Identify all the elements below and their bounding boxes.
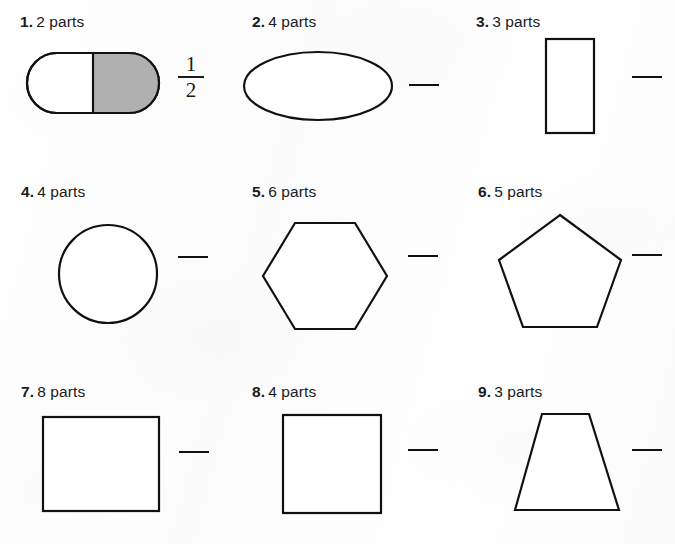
problem-5-label: 5.6 parts [252,183,316,201]
problem-7-label: 7.8 parts [21,383,85,401]
problem-2: 2.4 parts [230,0,460,150]
fraction-denominator: 2 [178,79,204,102]
problem-4: 4.4 parts [0,170,230,350]
problem-3-shape-rectangle-vertical[interactable] [544,37,596,135]
problem-8-number: 8. [252,383,265,400]
problem-8: 8.4 parts [230,370,460,544]
problem-6-number: 6. [478,183,491,200]
problem-2-number: 2. [252,13,265,30]
problem-3-parts: 3 parts [492,13,540,30]
problem-4-parts: 4 parts [37,183,85,200]
problem-4-shape-circle[interactable] [57,223,159,325]
problem-9-parts: 3 parts [494,383,542,400]
problem-1-shape-rounded-rectangle[interactable] [25,51,161,115]
problem-8-shape-square[interactable] [281,413,383,515]
problem-9-label: 9.3 parts [478,383,542,401]
problem-1-parts: 2 parts [36,13,84,30]
problem-6-label: 6.5 parts [478,183,542,201]
problem-6: 6.5 parts [460,170,675,350]
problem-6-shape-pentagon[interactable] [496,212,624,330]
problem-5: 5.6 parts [230,170,460,350]
worksheet-page: 1.2 parts 1 2 2.4 parts [0,0,675,544]
problem-9-shape-trapezoid[interactable] [512,411,622,513]
problem-7: 7.8 parts [0,370,230,544]
problem-2-answer-blank[interactable] [409,84,439,86]
problem-1-number: 1. [20,13,33,30]
problem-9-answer-blank[interactable] [632,449,662,451]
problem-3-label: 3.3 parts [476,13,540,31]
problem-3-number: 3. [476,13,489,30]
problem-8-answer-blank[interactable] [408,449,438,451]
problem-2-shape-ellipse[interactable] [240,48,396,124]
problem-6-parts: 5 parts [494,183,542,200]
problem-5-answer-blank[interactable] [408,255,438,257]
problem-4-number: 4. [21,183,34,200]
problem-3-answer-blank[interactable] [632,76,662,78]
problem-9: 9.3 parts [460,370,675,544]
problem-7-parts: 8 parts [37,383,85,400]
problem-2-parts: 4 parts [268,13,316,30]
problem-4-answer-blank[interactable] [178,256,208,258]
problem-5-parts: 6 parts [268,183,316,200]
problem-5-shape-hexagon[interactable] [260,220,390,332]
problem-2-label: 2.4 parts [252,13,316,31]
problem-7-shape-rectangle-horizontal[interactable] [41,415,161,513]
problem-5-number: 5. [252,183,265,200]
problem-7-number: 7. [21,383,34,400]
problem-9-number: 9. [478,383,491,400]
problem-1-answer-fraction: 1 2 [178,53,204,102]
problem-4-label: 4.4 parts [21,183,85,201]
problem-1: 1.2 parts 1 2 [0,0,230,150]
problem-8-label: 8.4 parts [252,383,316,401]
problem-8-parts: 4 parts [268,383,316,400]
problem-6-answer-blank[interactable] [632,254,662,256]
problem-3: 3.3 parts [460,0,675,150]
problem-1-label: 1.2 parts [20,13,84,31]
problem-7-answer-blank[interactable] [179,451,209,453]
fraction-numerator: 1 [178,53,204,75]
